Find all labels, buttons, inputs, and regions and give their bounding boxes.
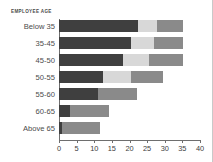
bar-segment[interactable] xyxy=(59,37,131,49)
bar-segment[interactable] xyxy=(98,88,137,100)
bar-row[interactable] xyxy=(59,122,200,134)
x-tick xyxy=(59,140,60,143)
bar-row[interactable] xyxy=(59,88,200,100)
bar-segment[interactable] xyxy=(131,37,154,49)
bar-segment[interactable] xyxy=(59,20,138,32)
bar-segment[interactable] xyxy=(123,54,149,66)
bar-segment[interactable] xyxy=(62,122,100,134)
category-label: 55-60 xyxy=(36,90,55,99)
bar-segment[interactable] xyxy=(59,105,70,117)
bar-row[interactable] xyxy=(59,71,200,83)
x-tick-label: 30 xyxy=(161,144,169,153)
bar-segment[interactable] xyxy=(157,20,183,32)
bar-segment[interactable] xyxy=(103,71,131,83)
bar-segment[interactable] xyxy=(70,105,109,117)
category-label: 60-65 xyxy=(36,107,55,116)
bar-row[interactable] xyxy=(59,37,200,49)
bar-row[interactable] xyxy=(59,20,200,32)
x-tick xyxy=(112,140,113,143)
bar-row[interactable] xyxy=(59,105,200,117)
x-tick xyxy=(147,140,148,143)
x-tick xyxy=(182,140,183,143)
bar-segment[interactable] xyxy=(154,37,183,49)
x-tick xyxy=(77,140,78,143)
chart-title: EMPLOYEE AGE xyxy=(11,9,52,14)
x-tick xyxy=(200,140,201,143)
x-tick xyxy=(94,140,95,143)
plot-area: 0510152025303540 xyxy=(59,19,200,140)
x-tick-label: 15 xyxy=(108,144,116,153)
x-tick-label: 25 xyxy=(143,144,151,153)
bar-segment[interactable] xyxy=(59,71,103,83)
x-tick-label: 10 xyxy=(90,144,98,153)
category-label: Below 35 xyxy=(24,22,55,31)
category-label: Above 65 xyxy=(23,124,55,133)
x-tick-label: 35 xyxy=(178,144,186,153)
x-tick-label: 40 xyxy=(196,144,204,153)
category-axis-labels: Below 3535-4545-5050-5555-6060-65Above 6… xyxy=(0,19,55,140)
x-tick xyxy=(165,140,166,143)
bar-row[interactable] xyxy=(59,54,200,66)
x-tick xyxy=(130,140,131,143)
bar-segment[interactable] xyxy=(131,71,163,83)
category-label: 50-55 xyxy=(36,73,55,82)
category-label: 45-50 xyxy=(36,56,55,65)
category-label: 35-45 xyxy=(36,39,55,48)
x-tick-label: 5 xyxy=(75,144,79,153)
bar-segment[interactable] xyxy=(149,54,183,66)
bar-segment[interactable] xyxy=(138,20,157,32)
bar-segment[interactable] xyxy=(59,88,98,100)
x-tick-label: 20 xyxy=(125,144,133,153)
bar-segment[interactable] xyxy=(59,54,123,66)
x-tick-label: 0 xyxy=(57,144,61,153)
chart-frame: EMPLOYEE AGE Below 3535-4545-5050-5555-6… xyxy=(0,0,213,162)
